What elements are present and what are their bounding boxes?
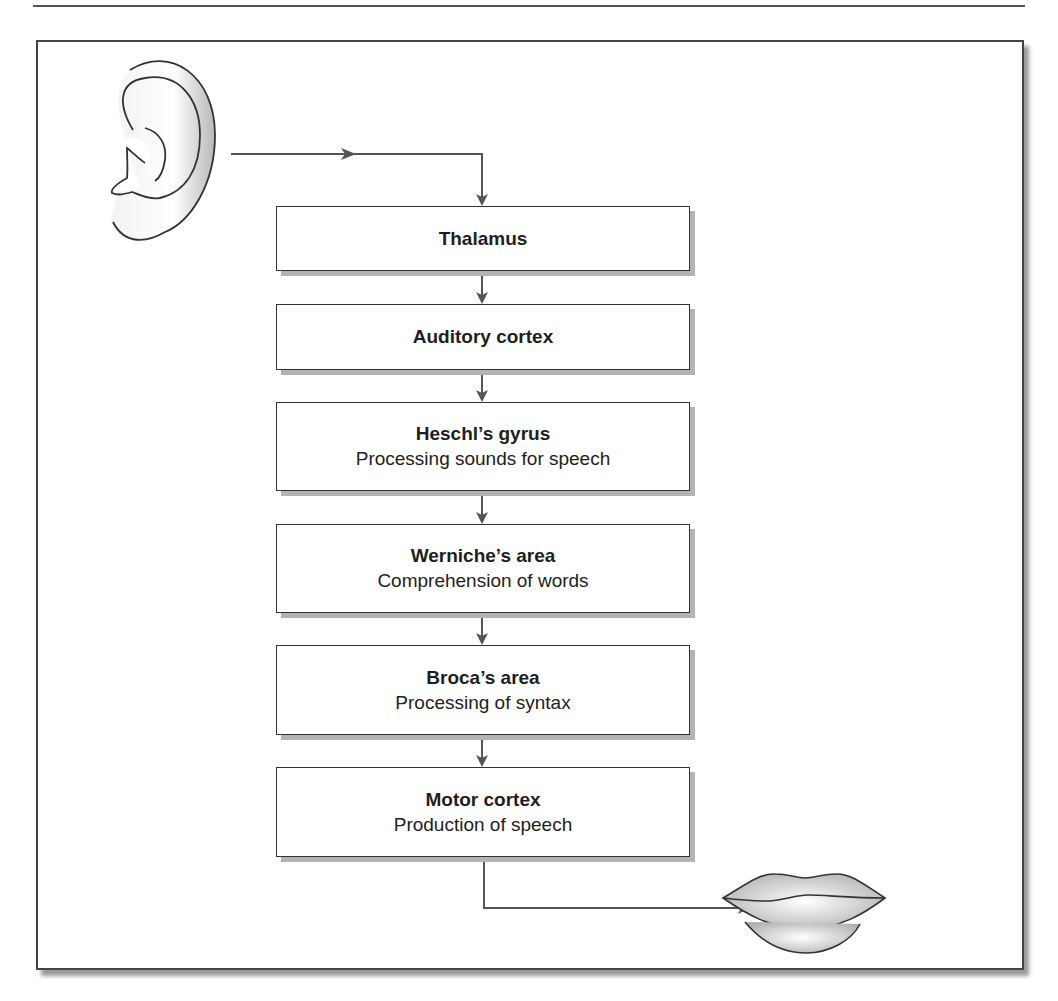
arrow-ear-to-thalamus (231, 154, 482, 204)
node-auditory-cortex: Auditory cortex (276, 304, 690, 370)
node-subtitle: Processing sounds for speech (356, 446, 611, 471)
node-subtitle: Production of speech (394, 812, 573, 837)
lips-icon (723, 874, 885, 953)
node-title: Thalamus (439, 227, 528, 251)
node-title: Motor cortex (425, 788, 540, 812)
node-brocas-area: Broca’s area Processing of syntax (276, 645, 690, 735)
node-title: Werniche’s area (411, 544, 556, 568)
node-title: Broca’s area (426, 666, 539, 690)
node-title: Heschl’s gyrus (416, 422, 550, 446)
node-heschls-gyrus: Heschl’s gyrus Processing sounds for spe… (276, 402, 690, 491)
node-thalamus: Thalamus (276, 206, 690, 271)
node-title: Auditory cortex (413, 325, 553, 349)
node-werniches-area: Werniche’s area Comprehension of words (276, 524, 690, 613)
node-subtitle: Processing of syntax (395, 690, 570, 715)
ear-icon (112, 61, 215, 240)
arrow-motor-to-lips (484, 858, 748, 908)
node-subtitle: Comprehension of words (377, 568, 588, 593)
node-motor-cortex: Motor cortex Production of speech (276, 767, 690, 857)
